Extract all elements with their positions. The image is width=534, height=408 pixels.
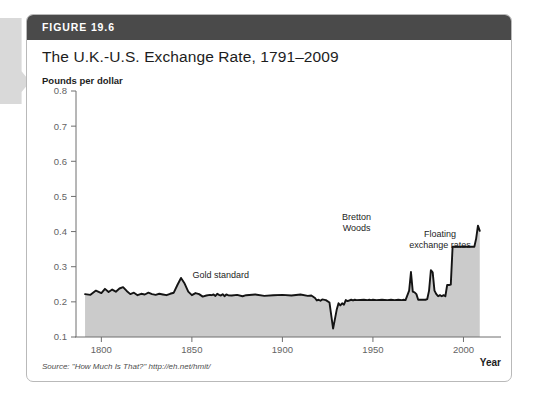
svg-text:Gold standard: Gold standard bbox=[193, 270, 250, 280]
exchange-rate-chart: 0.10.20.30.40.50.60.70.8 180018501900195… bbox=[27, 15, 512, 382]
svg-text:Bretton: Bretton bbox=[342, 212, 371, 222]
x-axis-title: Year bbox=[480, 357, 501, 368]
x-axis-tick-labels: 18001850190019502000 bbox=[91, 337, 474, 355]
svg-text:0.2: 0.2 bbox=[54, 296, 67, 307]
svg-text:Woods: Woods bbox=[343, 223, 371, 233]
svg-text:0.8: 0.8 bbox=[54, 85, 67, 96]
figure-card: FIGURE 19.6 The U.K.-U.S. Exchange Rate,… bbox=[26, 14, 512, 382]
svg-text:Year: Year bbox=[480, 357, 501, 368]
svg-text:0.4: 0.4 bbox=[54, 226, 67, 237]
svg-text:exchange rates: exchange rates bbox=[409, 240, 471, 250]
svg-text:Floating: Floating bbox=[424, 229, 456, 239]
svg-text:0.6: 0.6 bbox=[54, 156, 67, 167]
chart-plot-area: 0.10.20.30.40.50.60.70.8 180018501900195… bbox=[27, 15, 512, 382]
svg-text:2000: 2000 bbox=[453, 344, 474, 355]
chart-annotations: Gold standardBrettonWoodsFloatingexchang… bbox=[193, 212, 472, 280]
svg-text:1900: 1900 bbox=[272, 344, 293, 355]
svg-text:0.3: 0.3 bbox=[54, 261, 67, 272]
svg-text:0.5: 0.5 bbox=[54, 191, 67, 202]
svg-text:0.1: 0.1 bbox=[54, 331, 67, 342]
source-note: Source: "How Much Is That?" http://eh.ne… bbox=[42, 362, 210, 371]
svg-text:1850: 1850 bbox=[181, 344, 202, 355]
svg-text:1800: 1800 bbox=[91, 344, 112, 355]
svg-text:1950: 1950 bbox=[362, 344, 383, 355]
svg-text:0.7: 0.7 bbox=[54, 121, 67, 132]
y-axis-tick-labels: 0.10.20.30.40.50.60.70.8 bbox=[54, 85, 76, 342]
